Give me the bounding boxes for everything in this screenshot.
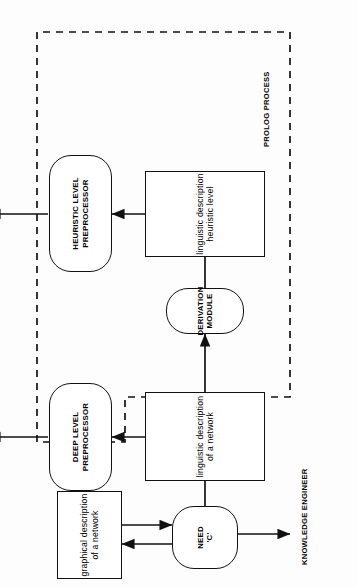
graphical-line2: of a network bbox=[90, 510, 100, 559]
diagram-rotation-wrapper: KNOWLEDGE ENGINEER NEED 'C' graphical de… bbox=[0, 0, 357, 587]
node-graphical-description[interactable]: graphical description of a network bbox=[57, 491, 122, 579]
need-line1: NEED bbox=[196, 526, 206, 548]
lingheur-line2: heuristic level bbox=[205, 186, 215, 241]
node-derivation-module[interactable]: DERIVATION MODULE bbox=[166, 288, 244, 334]
diagram-canvas: KNOWLEDGE ENGINEER NEED 'C' graphical de… bbox=[0, 0, 357, 587]
label-prolog-process: PROLOG PROCESS bbox=[262, 71, 272, 147]
deeppre-line2: PREPROCESSOR bbox=[81, 403, 91, 471]
graphical-line1: graphical description bbox=[79, 493, 89, 576]
node-linguistic-description-heuristic[interactable]: linguistic description heuristic level bbox=[145, 171, 265, 257]
deeppre-line1: DEEP LEVEL bbox=[71, 412, 81, 462]
lingnet-line1: linguistic description bbox=[195, 396, 205, 477]
lingnet-line2: of a network bbox=[205, 412, 215, 461]
prolog-process-text: PROLOG PROCESS bbox=[262, 71, 271, 147]
knowledge-engineer-line1: KNOWLEDGE bbox=[300, 513, 309, 565]
node-deep-level-preprocessor[interactable]: DEEP LEVEL PREPROCESSOR bbox=[49, 383, 112, 491]
derivation-line1: DERIVATION bbox=[196, 287, 206, 336]
node-need[interactable]: NEED 'C' bbox=[172, 506, 238, 569]
heurpre-line1: HEURISTIC LEVEL bbox=[71, 177, 81, 249]
label-knowledge-engineer: KNOWLEDGE ENGINEER bbox=[300, 469, 310, 566]
heurpre-line2: PREPROCESSOR bbox=[81, 179, 91, 247]
need-line2: 'C' bbox=[205, 533, 215, 543]
derivation-line2: MODULE bbox=[205, 294, 215, 329]
knowledge-engineer-line2: ENGINEER bbox=[300, 469, 309, 511]
node-heuristic-level-preprocessor[interactable]: HEURISTIC LEVEL PREPROCESSOR bbox=[49, 155, 112, 272]
lingheur-line1: linguistic description bbox=[195, 173, 205, 254]
node-linguistic-description-network[interactable]: linguistic description of a network bbox=[145, 392, 265, 481]
